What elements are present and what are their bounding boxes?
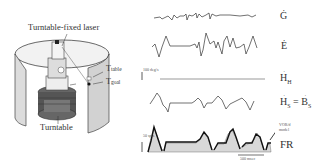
bs-sub: S (308, 103, 311, 109)
goal-label-sub: goal (111, 79, 120, 85)
bs-main: B˙ (301, 96, 308, 107)
trace-label-head-h: H˙H (280, 72, 292, 85)
model-legend: VOR/dmodel (279, 122, 291, 132)
table-label-sub: table (111, 66, 122, 72)
goal-target-label: Tgoal (106, 77, 120, 86)
hh-sub: H (287, 79, 291, 85)
trace-label-gaze: Ġ (280, 10, 287, 21)
hh-main: H˙ (280, 72, 287, 83)
firing-scale-label: 50 sp/s (143, 133, 154, 138)
traces-plot (140, 0, 275, 164)
velocity-scale-label: 100 deg/s (143, 67, 158, 72)
laser-label: Turntable-fixed laser (28, 22, 99, 32)
trace-label-fr: FR (280, 138, 293, 150)
table-target-label: Ttable (106, 64, 122, 73)
model-legend-line2: model (279, 127, 291, 132)
trace-label-head-body: H˙S = B˙S (280, 96, 311, 109)
turntable-label: Turntable (40, 122, 73, 132)
dot-mark: ˙ (283, 93, 285, 101)
equals-sign: = (291, 96, 302, 107)
dot-mark: ˙ (283, 69, 285, 77)
time-scale-label: 500 msec (240, 156, 255, 161)
hs-main: H˙ (280, 96, 287, 107)
trace-label-eye: Ė (281, 40, 287, 51)
dot-mark: ˙ (304, 93, 306, 101)
